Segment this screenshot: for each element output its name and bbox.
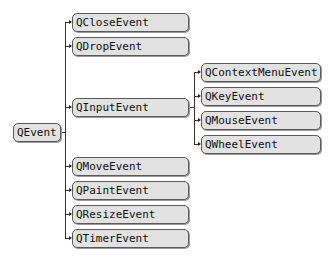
- node-qcloseevent: QCloseEvent: [72, 13, 189, 32]
- node-qresizeevent: QResizeEvent: [72, 205, 189, 224]
- node-qmouseevent: QMouseEvent: [201, 111, 321, 130]
- node-qmoveevent: QMoveEvent: [72, 157, 189, 176]
- node-qkeyevent: QKeyEvent: [201, 87, 321, 106]
- level2-trunk: [194, 72, 195, 145]
- level1-trunk: [65, 22, 66, 239]
- node-qpaintevent: QPaintEvent: [72, 181, 189, 200]
- node-qtimerevent: QTimerEvent: [72, 229, 189, 248]
- node-qevent: QEvent: [13, 123, 61, 142]
- node-qinputevent: QInputEvent: [72, 98, 189, 117]
- node-qcontextmenuevent: QContextMenuEvent: [201, 63, 321, 82]
- node-qdropevent: QDropEvent: [72, 37, 189, 56]
- node-qwheelevent: QWheelEvent: [201, 135, 321, 154]
